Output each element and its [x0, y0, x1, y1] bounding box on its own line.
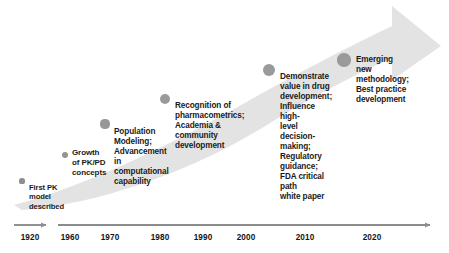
- milestone-label: Growth of PK/PD concepts: [72, 148, 106, 177]
- axis-tick-1960: 1960: [61, 233, 80, 242]
- milestone-dot: [337, 53, 350, 66]
- milestone-dot: [263, 64, 275, 76]
- axis-tick-2010: 2010: [296, 233, 315, 242]
- milestone-dot: [100, 119, 109, 128]
- axis-tick-1980: 1980: [151, 233, 170, 242]
- axis-tick-1970: 1970: [101, 233, 120, 242]
- milestone-dot: [19, 178, 24, 183]
- milestone-label: Population Modeling; Advancement in comp…: [114, 127, 169, 187]
- milestone-label: First PK model described: [29, 183, 64, 211]
- axis-tick-1990: 1990: [194, 233, 213, 242]
- milestone-dot: [160, 94, 171, 105]
- milestone-label: Demonstrate value in drug development; I…: [280, 72, 332, 202]
- milestone-label: Emerging new methodology; Best practice …: [356, 55, 409, 105]
- axis-tick-2020: 2020: [363, 233, 382, 242]
- axis-tick-1920: 1920: [21, 233, 40, 242]
- milestone-label: Recognition of pharmacometrics; Academia…: [175, 101, 244, 151]
- milestone-dot: [62, 152, 69, 159]
- axis-tick-2000: 2000: [237, 233, 256, 242]
- timeline-diagram: First PK model described Growth of PK/PD…: [0, 0, 449, 253]
